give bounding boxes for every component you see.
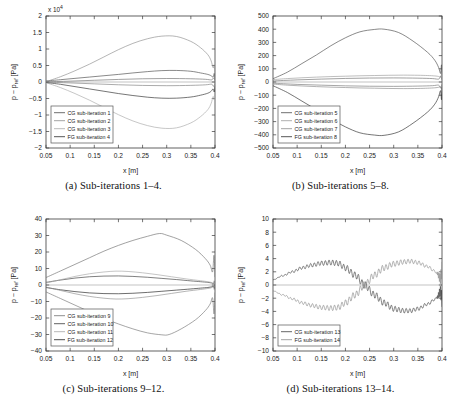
y-tick-label: 2: [38, 12, 42, 19]
x-axis-label: x [m]: [123, 370, 138, 378]
subplot-d: 0.050.10.150.20.250.30.350.4−10−8−6−4−20…: [227, 203, 454, 406]
y-axis-label: p − pref [Pa]: [237, 64, 246, 100]
y-tick-label: 2: [265, 268, 269, 275]
y-tick-label: 0: [265, 281, 269, 288]
y-tick-label: 400: [258, 26, 269, 33]
y-tick-label: 100: [258, 65, 269, 72]
y-tick-label: 1: [38, 45, 42, 52]
x-tick-label: 0.05: [267, 152, 280, 159]
y-tick-label: −200: [254, 105, 269, 112]
y-tick-label: −400: [254, 131, 269, 138]
x-tick-label: 0.25: [363, 355, 376, 362]
legend-label: CG sub-iteration 13: [295, 329, 341, 335]
x-tick-label: 0.3: [389, 355, 398, 362]
y-tick-label: 1.5: [33, 29, 42, 36]
y-tick-label: −100: [254, 92, 269, 99]
y-tick-label: 0: [38, 281, 42, 288]
chart-a: 0.050.10.150.20.250.30.350.4−2−1.5−1−0.5…: [0, 0, 227, 182]
subplot-b-caption: (b) Sub-iterations 5–8.: [227, 180, 454, 191]
x-tick-label: 0.05: [267, 355, 280, 362]
chart-c: 0.050.10.150.20.250.30.350.4−40−30−20−10…: [0, 203, 227, 385]
legend-label: FG sub-iteration 8: [295, 134, 337, 140]
y-tick-label: 300: [258, 39, 269, 46]
subplot-c-plot: 0.050.10.150.20.250.30.350.4−40−30−20−10…: [0, 203, 227, 385]
x-tick-label: 0.3: [162, 355, 171, 362]
y-tick-label: 10: [35, 265, 43, 272]
legend-label: CG sub-iteration 1: [68, 110, 111, 116]
y-tick-label: −300: [254, 118, 269, 125]
y-tick-label: −1.5: [29, 128, 42, 135]
x-axis-label: x [m]: [123, 167, 138, 175]
y-tick-label: 0: [38, 78, 42, 85]
x-tick-label: 0.1: [293, 355, 302, 362]
legend-c: CG sub-iteration 9CG sub-iteration 10CG …: [51, 309, 113, 346]
x-tick-label: 0.35: [184, 152, 197, 159]
subplot-d-caption: (d) Sub-iterations 13–14.: [227, 383, 454, 394]
x-tick-label: 0.15: [315, 355, 328, 362]
x-axis-label: x [m]: [350, 167, 365, 175]
y-tick-label: −10: [258, 347, 270, 354]
y-tick-label: −10: [31, 298, 43, 305]
y-tick-label: −40: [31, 347, 43, 354]
x-tick-label: 0.4: [210, 355, 219, 362]
x-tick-label: 0.35: [411, 355, 424, 362]
x-tick-label: 0.15: [88, 355, 101, 362]
legend-a: CG sub-iteration 1CG sub-iteration 2CG s…: [51, 106, 113, 143]
chart-d: 0.050.10.150.20.250.30.350.4−10−8−6−4−20…: [227, 203, 454, 385]
y-tick-label: −4: [261, 308, 269, 315]
subplot-d-plot: 0.050.10.150.20.250.30.350.4−10−8−6−4−20…: [227, 203, 454, 385]
legend-label: FG sub-iteration 12: [68, 337, 113, 343]
legend-label: CG sub-iteration 10: [68, 321, 114, 327]
y-axis-label: p − pref [Pa]: [10, 64, 19, 100]
x-tick-label: 0.05: [40, 152, 53, 159]
subplot-c: 0.050.10.150.20.250.30.350.4−40−30−20−10…: [0, 203, 227, 406]
subplot-c-caption: (c) Sub-iterations 9–12.: [0, 383, 227, 394]
x-tick-label: 0.1: [66, 152, 75, 159]
y-tick-label: −2: [261, 295, 269, 302]
x-tick-label: 0.3: [162, 152, 171, 159]
x-tick-label: 0.1: [66, 355, 75, 362]
y-tick-label: 4: [265, 255, 269, 262]
x-tick-label: 0.2: [341, 355, 350, 362]
y-tick-label: −8: [261, 334, 269, 341]
y-tick-label: 30: [35, 232, 43, 239]
x-tick-label: 0.25: [136, 152, 149, 159]
y-tick-label: 0: [265, 78, 269, 85]
x-tick-label: 0.2: [114, 152, 123, 159]
subplot-b: 0.050.10.150.20.250.30.350.4−500−400−300…: [227, 0, 454, 203]
x-tick-label: 0.15: [88, 152, 101, 159]
x-tick-label: 0.4: [210, 152, 219, 159]
y-tick-label: −30: [31, 331, 43, 338]
legend-label: CG sub-iteration 7: [295, 126, 338, 132]
x-tick-label: 0.15: [315, 152, 328, 159]
legend-b: CG sub-iteration 5CG sub-iteration 6CG s…: [278, 106, 340, 143]
y-tick-label: 6: [265, 242, 269, 249]
x-tick-label: 0.35: [411, 152, 424, 159]
y-tick-label: −20: [31, 314, 43, 321]
x-tick-label: 0.2: [114, 355, 123, 362]
y-tick-label: 40: [35, 215, 43, 222]
legend-label: CG sub-iteration 9: [68, 313, 111, 319]
legend-label: CG sub-iteration 6: [295, 118, 338, 124]
x-tick-label: 0.2: [341, 152, 350, 159]
legend-label: FG sub-iteration 4: [68, 134, 110, 140]
y-axis-exponent: x 104: [48, 4, 63, 13]
legend-label: CG sub-iteration 2: [68, 118, 111, 124]
x-tick-label: 0.4: [437, 355, 446, 362]
y-tick-label: −2: [34, 144, 42, 151]
legend-label: FG sub-iteration 14: [295, 337, 340, 343]
x-tick-label: 0.1: [293, 152, 302, 159]
y-tick-label: 0.5: [33, 62, 42, 69]
y-tick-label: −0.5: [29, 95, 42, 102]
subplot-a-plot: 0.050.10.150.20.250.30.350.4−2−1.5−1−0.5…: [0, 0, 227, 182]
subplot-a: 0.050.10.150.20.250.30.350.4−2−1.5−1−0.5…: [0, 0, 227, 203]
figure-root: 0.050.10.150.20.250.30.350.4−2−1.5−1−0.5…: [0, 0, 454, 406]
subplot-a-caption: (a) Sub-iterations 1–4.: [0, 180, 227, 191]
x-tick-label: 0.3: [389, 152, 398, 159]
y-tick-label: −500: [254, 144, 269, 151]
legend-d: CG sub-iteration 13FG sub-iteration 14: [278, 325, 340, 346]
x-tick-label: 0.25: [136, 355, 149, 362]
x-axis-label: x [m]: [350, 370, 365, 378]
y-axis-label: p − pref [Pa]: [237, 267, 246, 303]
y-axis-label: p − pref [Pa]: [10, 267, 19, 303]
